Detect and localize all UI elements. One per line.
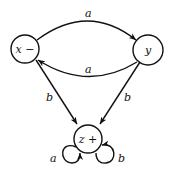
edge-label-y-z: b [124, 91, 131, 104]
edge-x-to-y [37, 21, 136, 40]
node-y-label: y [144, 44, 152, 57]
automaton-diagram: a a b b a b x − y z + [0, 0, 173, 176]
edge-label-x-z: b [46, 91, 53, 104]
node-x: x − [11, 35, 39, 63]
loop-label-a: a [50, 152, 57, 165]
node-z-label: z + [78, 133, 98, 146]
edge-label-x-y: a [85, 7, 92, 20]
edge-label-y-x: a [85, 63, 92, 76]
loop-label-b: b [118, 152, 125, 165]
edge-y-to-z [100, 62, 140, 124]
node-x-label: x − [16, 43, 35, 56]
node-y: y [133, 35, 163, 65]
node-z: z + [74, 125, 102, 153]
